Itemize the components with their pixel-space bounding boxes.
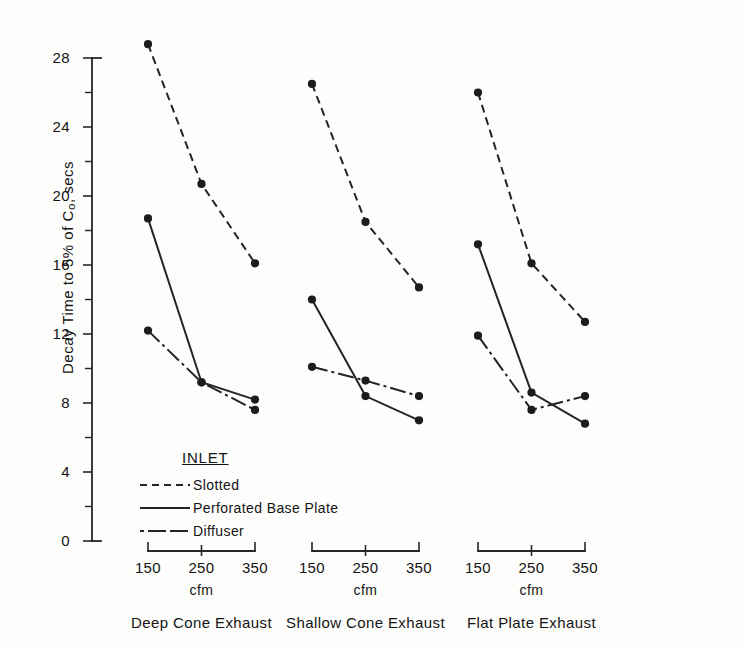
x-axis-tick-label: 250 <box>510 559 554 576</box>
data-point <box>415 392 423 400</box>
x-axis-tick-label: 250 <box>180 559 224 576</box>
x-axis-tick-label: 350 <box>563 559 607 576</box>
y-axis-tick-label: 28 <box>36 49 70 66</box>
data-point <box>527 259 535 267</box>
chart-plot-area <box>0 0 743 648</box>
data-point <box>361 392 369 400</box>
data-point <box>474 332 482 340</box>
x-axis-unit-label: cfm <box>502 582 562 598</box>
data-point <box>581 420 589 428</box>
series-line-diffuser <box>478 336 585 410</box>
series-line-diffuser <box>148 331 255 410</box>
data-point <box>308 80 316 88</box>
x-axis-tick-label: 150 <box>456 559 500 576</box>
legend-label-diffuser: Diffuser <box>193 523 244 539</box>
data-point <box>144 214 152 222</box>
data-point <box>308 295 316 303</box>
y-axis-tick-label: 20 <box>36 187 70 204</box>
legend-label-perforated-base-plate: Perforated Base Plate <box>193 500 338 516</box>
y-axis-tick-label: 8 <box>36 394 70 411</box>
x-axis-unit-label: cfm <box>336 582 396 598</box>
data-point <box>527 406 535 414</box>
data-point <box>144 327 152 335</box>
x-axis-tick-label: 250 <box>344 559 388 576</box>
data-point <box>415 283 423 291</box>
data-point <box>144 40 152 48</box>
series-line-perforated-base-plate <box>148 218 255 399</box>
chart-figure: Decay Time to 5% of Co, secs 28242016128… <box>0 0 743 648</box>
y-axis-tick-label: 4 <box>36 463 70 480</box>
data-point <box>197 180 205 188</box>
legend-title: INLET <box>182 449 229 466</box>
x-axis-tick-label: 150 <box>126 559 170 576</box>
data-point <box>581 392 589 400</box>
data-point <box>361 218 369 226</box>
data-point <box>361 377 369 385</box>
y-axis-label-subscript: o <box>64 203 77 210</box>
data-point <box>251 396 259 404</box>
data-point <box>415 416 423 424</box>
x-axis-tick-label: 350 <box>233 559 277 576</box>
series-line-slotted <box>148 44 255 263</box>
x-axis-tick-label: 150 <box>290 559 334 576</box>
data-point <box>527 389 535 397</box>
y-axis-tick-label: 24 <box>36 118 70 135</box>
x-axis-tick-label: 350 <box>397 559 441 576</box>
series-line-perforated-base-plate <box>312 300 419 421</box>
panel-title: Flat Plate Exhaust <box>427 614 637 631</box>
data-point <box>251 259 259 267</box>
y-axis-tick-label: 12 <box>36 325 70 342</box>
data-point <box>474 88 482 96</box>
legend-label-slotted: Slotted <box>193 477 239 493</box>
series-line-slotted <box>312 84 419 288</box>
series-line-perforated-base-plate <box>478 244 585 423</box>
data-point <box>581 318 589 326</box>
y-axis-label-prefix: Decay Time to 5% of C <box>59 210 76 374</box>
data-point <box>474 240 482 248</box>
y-axis-tick-label: 0 <box>36 532 70 549</box>
x-axis-unit-label: cfm <box>172 582 232 598</box>
y-axis-tick-label: 16 <box>36 256 70 273</box>
data-point <box>308 363 316 371</box>
data-point <box>251 406 259 414</box>
data-point <box>197 378 205 386</box>
